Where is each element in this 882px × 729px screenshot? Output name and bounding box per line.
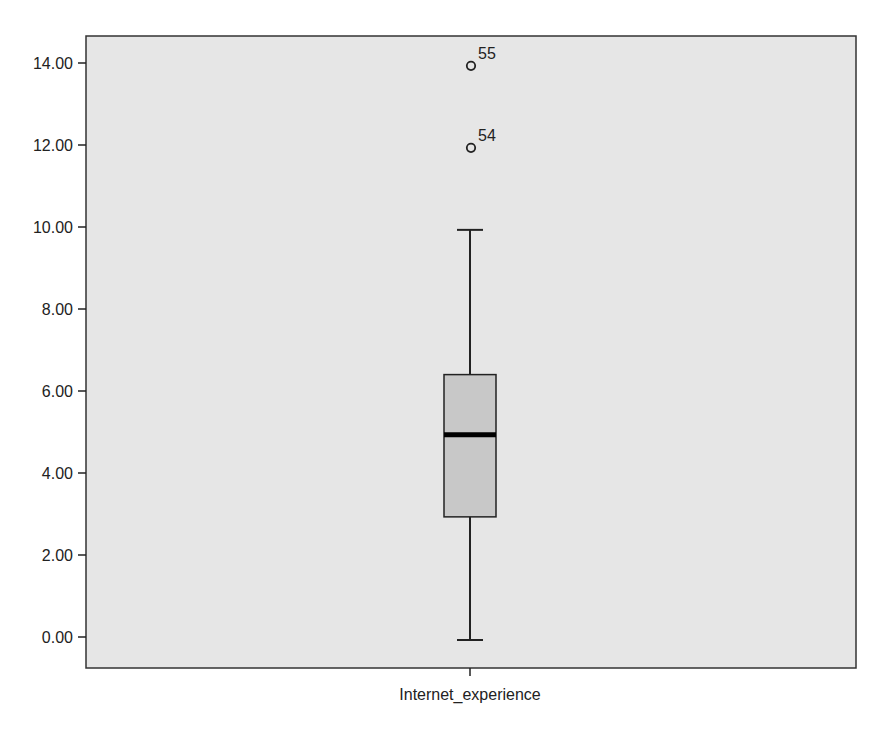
- x-category-label: Internet_experience: [399, 686, 541, 704]
- x-axis: Internet_experience: [399, 668, 541, 704]
- y-tick-label: 2.00: [42, 547, 73, 564]
- y-tick-label: 8.00: [42, 301, 73, 318]
- iqr-box: [444, 375, 496, 517]
- y-tick-label: 0.00: [42, 629, 73, 646]
- y-tick-label: 12.00: [33, 137, 73, 154]
- y-tick-label: 10.00: [33, 219, 73, 236]
- outlier-label: 55: [478, 45, 496, 62]
- outlier-label: 54: [478, 127, 496, 144]
- y-tick-label: 14.00: [33, 55, 73, 72]
- boxplot-chart: 0.002.004.006.008.0010.0012.0014.00 Inte…: [0, 0, 882, 729]
- y-axis: 0.002.004.006.008.0010.0012.0014.00: [33, 55, 86, 646]
- y-tick-label: 6.00: [42, 383, 73, 400]
- y-tick-label: 4.00: [42, 465, 73, 482]
